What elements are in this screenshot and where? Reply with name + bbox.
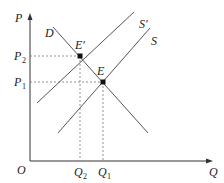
p2-tick-label: P 2 [13, 49, 26, 65]
svg-text:1: 1 [22, 82, 26, 91]
p-axis-label: P [14, 11, 23, 25]
p1-tick-label: P 1 [13, 75, 26, 91]
demand-label: D [44, 26, 54, 40]
e-label: E [96, 64, 105, 78]
svg-text:P: P [13, 49, 22, 63]
q2-tick-label: Q 2 [74, 165, 87, 181]
equilibrium-point-e-prime [78, 54, 83, 59]
svg-text:Q: Q [98, 165, 107, 179]
svg-text:2: 2 [83, 172, 87, 181]
svg-text:1: 1 [107, 172, 111, 181]
svg-text:P: P [13, 75, 22, 89]
q1-tick-label: Q 1 [98, 165, 111, 181]
p-axis-arrow-icon [28, 13, 33, 20]
e-prime-label: E′ [74, 38, 85, 52]
equilibrium-point-e [101, 80, 106, 85]
svg-text:Q: Q [74, 165, 83, 179]
q-axis-arrow-icon [206, 159, 213, 164]
svg-text:2: 2 [22, 56, 26, 65]
supply-demand-diagram: P Q O D S′ S E′ E P 2 P 1 Q 2 Q 1 [0, 0, 224, 183]
supply-shifted-label: S′ [139, 17, 148, 31]
q-axis-label: Q [209, 165, 218, 179]
supply-label: S [151, 34, 157, 48]
origin-label: O [17, 163, 26, 177]
